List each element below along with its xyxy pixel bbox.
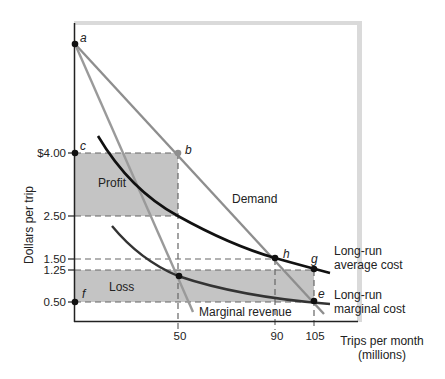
x-tick-105: 105 — [305, 330, 324, 342]
x-tick-50: 50 — [174, 330, 187, 342]
y-axis-title: Dollars per trip — [22, 186, 36, 264]
point-e — [311, 298, 318, 305]
label-e: e — [318, 287, 325, 301]
label-g: g — [311, 252, 318, 266]
x-axis-title-line1: Trips per month — [340, 334, 424, 348]
lrac-label-line1: Long-run — [334, 244, 382, 258]
panel-top-shadow — [74, 21, 362, 25]
y-tick-250: 2.50 — [44, 210, 66, 222]
panel-right-shadow — [357, 21, 362, 322]
label-h: h — [283, 247, 290, 261]
point-a — [72, 41, 79, 48]
demand-label: Demand — [232, 192, 277, 206]
marginal-revenue-label: Marginal revenue — [199, 305, 292, 319]
label-c: c — [80, 139, 86, 153]
point-f — [72, 299, 79, 306]
x-axis-title-line2: (millions) — [358, 348, 406, 362]
profit-label: Profit — [98, 176, 127, 190]
y-tick-050: 0.50 — [44, 296, 66, 308]
lrac-label-line2: average cost — [334, 258, 403, 272]
x-tick-90: 90 — [271, 330, 284, 342]
y-tick-125: 1.25 — [44, 264, 66, 276]
lrmc-label-line1: Long-run — [334, 288, 382, 302]
label-a: a — [80, 31, 87, 45]
point-c — [72, 150, 79, 157]
lrmc-label-line2: marginal cost — [334, 302, 406, 316]
point-mr-lrmc — [176, 273, 183, 280]
loss-label: Loss — [109, 280, 134, 294]
chart: a c b f h g e Profit Loss Demand Margina… — [0, 0, 445, 379]
label-b: b — [185, 143, 192, 157]
point-h — [272, 255, 279, 262]
y-tick-400: $4.00 — [37, 147, 66, 159]
point-b — [175, 150, 182, 157]
point-g — [311, 266, 318, 273]
